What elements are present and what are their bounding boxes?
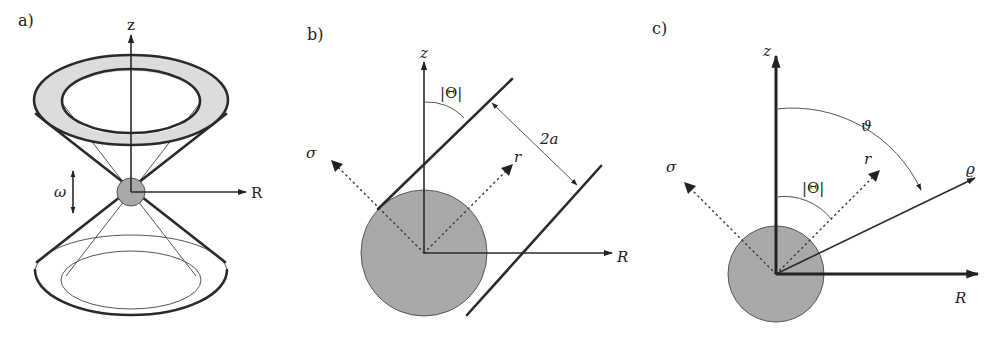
r-diag-axis: [776, 177, 873, 274]
width-label: 2a: [539, 130, 559, 148]
r-diag-label: r: [514, 148, 522, 166]
vartheta-arc: [776, 108, 921, 190]
panel-b: b) z R σ r |Θ| 2a: [306, 25, 628, 316]
figure-canvas: a) z R ω b): [0, 0, 1000, 340]
panel-a-label: a): [18, 11, 34, 30]
bottom-outer-front-arc: [35, 270, 227, 315]
panel-b-label: b): [307, 25, 323, 44]
r-axis-label: R: [251, 184, 263, 202]
theta-arc: [776, 196, 832, 220]
r-axis-label: R: [954, 289, 966, 307]
sigma-label: σ: [666, 158, 677, 176]
theta-arc: [424, 102, 464, 118]
bottom-inner-ellipse: [61, 251, 201, 309]
theta-label: |Θ|: [440, 84, 462, 102]
sigma-arrowhead-icon: [331, 160, 343, 172]
panel-c: c) ϱ z R σ r |Θ| ϑ: [652, 19, 978, 322]
omega-label: ω: [54, 183, 66, 201]
r-diag-arrowhead-icon: [868, 170, 880, 182]
r-diag-label: r: [864, 150, 872, 168]
panel-c-label: c): [652, 19, 667, 38]
vartheta-label: ϑ: [861, 117, 872, 135]
panel-a: a) z R ω: [18, 11, 263, 315]
sigma-label: σ: [306, 144, 317, 162]
wall-lower: [467, 166, 601, 315]
rho-label: ϱ: [966, 160, 975, 178]
z-axis-label: z: [762, 42, 771, 60]
theta-label: |Θ|: [802, 179, 824, 197]
r-diag-arrowhead-icon: [501, 164, 513, 176]
z-axis-label: z: [419, 44, 428, 62]
z-axis-label: z: [127, 16, 135, 34]
r-axis-label: R: [616, 248, 628, 266]
